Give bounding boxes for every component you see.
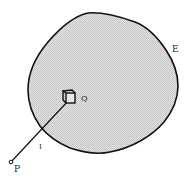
label-q: Q bbox=[81, 94, 88, 103]
region-e bbox=[28, 13, 178, 153]
label-i: I bbox=[39, 143, 42, 151]
label-e: E bbox=[172, 44, 179, 54]
label-p: P bbox=[14, 164, 20, 174]
diagram-canvas: E Q P I bbox=[0, 0, 189, 178]
point-p-marker bbox=[9, 160, 13, 164]
